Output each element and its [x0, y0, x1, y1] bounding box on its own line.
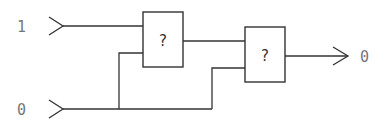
- gate-2: ?: [245, 27, 285, 82]
- circuit-diagram: 1 0 ? ? 0: [0, 0, 375, 128]
- input-1-label: 1: [17, 18, 26, 36]
- gate-2-label: ?: [261, 47, 269, 65]
- output-label: 0: [360, 48, 369, 66]
- input-2-label: 0: [17, 101, 26, 119]
- input-1-arrow-icon: [49, 17, 63, 35]
- wire-in2-gate1: [119, 53, 143, 109]
- gate-1: ?: [143, 12, 183, 67]
- input-2-arrow-icon: [49, 100, 63, 118]
- gate-1-label: ?: [159, 32, 167, 50]
- wire-in2-gate2: [212, 68, 245, 109]
